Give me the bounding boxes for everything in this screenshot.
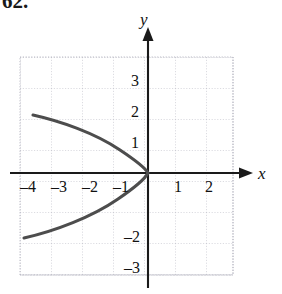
x-tick-label: –2 — [81, 178, 98, 195]
x-tick-label: 2 — [205, 178, 213, 195]
coordinate-plane-svg: x y –4 –3 –2 –1 1 2 3 2 1 –2 –3 — [0, 0, 282, 294]
x-tick-label: –1 — [112, 178, 129, 195]
y-axis-label: y — [138, 10, 148, 29]
x-tick-label: –3 — [50, 178, 67, 195]
x-tick-label: –4 — [19, 178, 36, 195]
x-axis-label: x — [257, 164, 266, 183]
y-tick-label: 3 — [131, 72, 139, 89]
graph-figure: 62. x y — [0, 0, 282, 294]
x-tick-label: 1 — [174, 178, 182, 195]
y-tick-label: 1 — [131, 134, 139, 151]
y-tick-label: –3 — [123, 259, 140, 276]
y-tick-label: –2 — [123, 228, 140, 245]
y-tick-label: 2 — [131, 103, 139, 120]
